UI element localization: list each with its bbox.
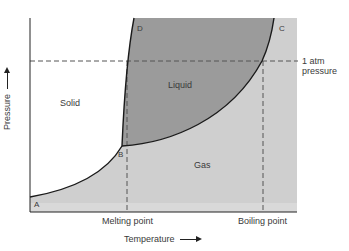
- arrow-right-icon: [180, 239, 200, 240]
- liquid-region-label: Liquid: [168, 81, 192, 90]
- x-axis-title-text: Temperature: [124, 234, 175, 244]
- phase-diagram: [0, 0, 349, 251]
- x-axis-title: Temperature: [124, 234, 200, 244]
- arrow-up-icon: [7, 69, 8, 89]
- one-atm-label-line2: pressure: [302, 67, 337, 76]
- bottom-band: [30, 203, 297, 212]
- y-axis-title: Pressure: [2, 69, 12, 130]
- one-atm-label-line1: 1 atm: [302, 57, 325, 66]
- point-a-label: A: [34, 201, 39, 209]
- y-axis-title-text: Pressure: [2, 94, 12, 130]
- point-b-label: B: [118, 151, 123, 159]
- point-d-label: D: [137, 25, 143, 33]
- boiling-point-label: Boiling point: [238, 217, 287, 226]
- solid-region-label: Solid: [60, 99, 80, 108]
- gas-region-label: Gas: [194, 161, 211, 170]
- point-c-label: C: [279, 25, 285, 33]
- melting-point-label: Melting point: [102, 217, 153, 226]
